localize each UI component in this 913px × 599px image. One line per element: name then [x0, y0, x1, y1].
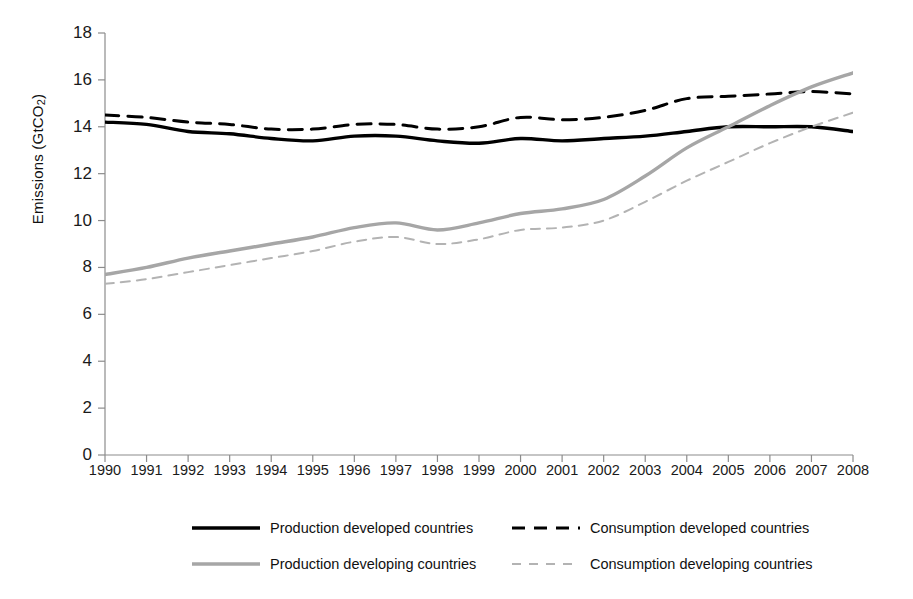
series-line-consumption-developed	[105, 92, 853, 130]
emissions-line-chart: Emissions (GtCO2) 024681012141618 199019…	[0, 0, 913, 599]
legend-item-production-developing[interactable]: Production developing countries	[190, 556, 510, 572]
legend-label-production-developed: Production developed countries	[270, 520, 473, 536]
y-tick-label-16: 16	[73, 70, 92, 90]
x-tick-label-2003: 2003	[629, 462, 661, 478]
legend-label-production-developing: Production developing countries	[270, 556, 476, 572]
x-tick-label-1998: 1998	[421, 462, 453, 478]
x-tick-label-1995: 1995	[297, 462, 329, 478]
y-tick-label-18: 18	[73, 23, 92, 43]
x-tick-label-2000: 2000	[504, 462, 536, 478]
y-tick-label-2: 2	[83, 398, 92, 418]
y-tick-label-4: 4	[83, 351, 92, 371]
x-tick-label-1990: 1990	[89, 462, 121, 478]
legend-label-consumption-developing: Consumption developing countries	[590, 556, 812, 572]
legend-label-consumption-developed: Consumption developed countries	[590, 520, 809, 536]
legend-item-consumption-developing[interactable]: Consumption developing countries	[510, 556, 880, 572]
x-tick-label-2006: 2006	[754, 462, 786, 478]
x-tick-label-2002: 2002	[588, 462, 620, 478]
y-tick-label-12: 12	[73, 164, 92, 184]
x-tick-label-1996: 1996	[338, 462, 370, 478]
legend-item-production-developed[interactable]: Production developed countries	[190, 520, 510, 536]
legend-swatch-consumption-developed	[510, 521, 582, 535]
legend-item-consumption-developed[interactable]: Consumption developed countries	[510, 520, 880, 536]
series-line-production-developed	[105, 122, 853, 143]
y-tick-label-10: 10	[73, 211, 92, 231]
x-tick-label-1997: 1997	[380, 462, 412, 478]
legend-swatch-production-developed	[190, 521, 262, 535]
x-tick-label-1994: 1994	[255, 462, 287, 478]
x-tick-label-2004: 2004	[671, 462, 703, 478]
x-tick-label-2005: 2005	[712, 462, 744, 478]
y-tick-label-6: 6	[83, 304, 92, 324]
legend-swatch-production-developing	[190, 557, 262, 571]
x-tick-label-2001: 2001	[546, 462, 578, 478]
x-tick-label-2008: 2008	[837, 462, 869, 478]
legend-swatch-consumption-developing	[510, 557, 582, 571]
chart-legend: Production developed countriesConsumptio…	[190, 520, 880, 572]
series-line-production-developing	[105, 73, 853, 275]
series-line-consumption-developing	[105, 113, 853, 284]
x-tick-label-1991: 1991	[130, 462, 162, 478]
x-tick-label-1993: 1993	[214, 462, 246, 478]
x-tick-label-1992: 1992	[172, 462, 204, 478]
y-tick-label-14: 14	[73, 117, 92, 137]
y-axis-tick-labels: 024681012141618	[40, 0, 92, 599]
y-tick-label-8: 8	[83, 257, 92, 277]
x-tick-label-1999: 1999	[463, 462, 495, 478]
x-tick-label-2007: 2007	[795, 462, 827, 478]
plot-area	[105, 33, 853, 455]
